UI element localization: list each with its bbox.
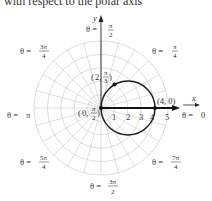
svg-text:π: π — [92, 105, 96, 113]
label-4-0: (4, 0) — [157, 96, 176, 106]
svg-text:2: 2 — [92, 114, 96, 122]
angle-label-3pi-2: θ = 3π 2 — [90, 178, 118, 196]
svg-text:0: 0 — [201, 110, 205, 120]
angle-label-pi: θ = π — [7, 110, 31, 120]
y-axis-arrow-icon — [99, 15, 104, 22]
x-axis-label: x — [191, 93, 196, 103]
svg-text:(: ( — [91, 72, 94, 82]
svg-text:3: 3 — [139, 112, 143, 122]
svg-text:1: 1 — [112, 112, 116, 122]
svg-text:0,: 0, — [82, 108, 88, 118]
svg-text:π: π — [104, 69, 108, 77]
svg-text:(: ( — [78, 108, 81, 118]
svg-text:5: 5 — [165, 112, 169, 122]
svg-text:θ =: θ = — [90, 181, 101, 191]
point-4-0 — [153, 106, 157, 110]
angle-label-0: θ = 0 — [182, 110, 205, 120]
svg-text:4: 4 — [173, 52, 177, 60]
polar-graph: y x 1 2 3 4 5 ( 2, π 3 ) (4, 0) ( 0, π 2… — [0, 0, 212, 201]
svg-text:θ =: θ = — [86, 24, 97, 34]
svg-text:5π: 5π — [40, 154, 48, 162]
svg-text:π: π — [109, 22, 113, 30]
svg-text:3π: 3π — [109, 178, 117, 186]
svg-text:): ) — [109, 72, 112, 82]
angle-label-5pi-4: θ = 5π 4 — [20, 154, 49, 171]
svg-text:π: π — [173, 43, 177, 51]
svg-text:θ =: θ = — [7, 110, 18, 120]
svg-text:2,: 2, — [95, 72, 101, 82]
svg-text:2: 2 — [111, 188, 115, 196]
svg-text:3π: 3π — [40, 43, 48, 51]
svg-text:4: 4 — [174, 163, 178, 171]
svg-text:θ =: θ = — [20, 157, 31, 167]
angle-label-7pi-4: θ = 7π 4 — [152, 154, 181, 171]
svg-text:): ) — [97, 108, 100, 118]
svg-text:4: 4 — [42, 163, 46, 171]
svg-text:2: 2 — [126, 112, 130, 122]
angle-label-3pi-4: θ = 3π 4 — [20, 43, 49, 60]
svg-text:θ =: θ = — [182, 110, 193, 120]
y-axis-label: y — [92, 13, 97, 23]
svg-text:7π: 7π — [172, 154, 180, 162]
angle-label-pi-4: θ = π 4 — [152, 43, 178, 60]
point-2-pi-3 — [113, 83, 117, 87]
angle-label-pi-2: θ = π 2 — [86, 22, 114, 39]
svg-text:3: 3 — [104, 77, 108, 85]
svg-text:π: π — [26, 110, 31, 120]
svg-text:θ =: θ = — [152, 46, 163, 56]
svg-text:4: 4 — [42, 52, 46, 60]
svg-text:θ =: θ = — [20, 46, 31, 56]
svg-text:2: 2 — [109, 31, 113, 39]
svg-text:θ =: θ = — [152, 157, 163, 167]
